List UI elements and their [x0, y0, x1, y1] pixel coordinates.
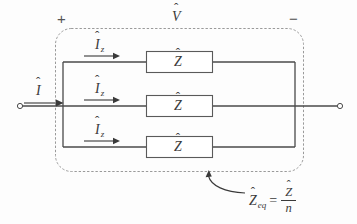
equation-operator: =: [269, 193, 277, 209]
total-current-hat-accent: ˆ: [36, 76, 40, 89]
equation-lhs: ˆ Z eq: [249, 193, 265, 209]
voltage-hat-accent: ˆ: [174, 2, 178, 15]
voltage-polarity-minus: −: [289, 11, 298, 26]
voltage-label: ˆ V: [172, 10, 181, 24]
equation-leader-arrow: [206, 170, 245, 193]
branch-middle-impedance-hat-accent: ˆ: [176, 91, 180, 104]
branch-bottom-current-hat-accent: ˆ: [95, 115, 99, 128]
branch-top-current-hat-accent: ˆ: [95, 30, 99, 43]
branch-bottom-current-subscript: z: [101, 129, 105, 139]
output-terminal: [337, 103, 342, 108]
equation-lhs-hat-accent: ˆ: [251, 185, 255, 200]
branch-bottom-impedance-label: ˆ Z: [174, 140, 182, 154]
branch-middle-current-subscript: z: [101, 88, 105, 98]
circuit-diagram-canvas: + − ˆ V ˆ I ˆ I z ˆ I z ˆ I z: [0, 0, 357, 224]
equation-denominator: n: [284, 201, 294, 215]
branch-middle-current-label: ˆ I z: [95, 82, 103, 96]
branch-top-current-subscript: z: [101, 44, 105, 54]
equivalent-impedance-equation: ˆ Z eq = ˆ Z n: [249, 186, 296, 215]
branch-middle-current-hat-accent: ˆ: [95, 74, 99, 87]
branch-top-impedance-hat-accent: ˆ: [176, 47, 180, 60]
equation-fraction: ˆ Z n: [281, 186, 296, 215]
branch-bottom-impedance-hat-accent: ˆ: [176, 132, 180, 145]
branch-top-impedance-label: ˆ Z: [174, 55, 182, 69]
branch-bottom-current-label: ˆ I z: [95, 123, 103, 137]
equation-lhs-subscript: eq: [258, 200, 267, 210]
input-terminal: [17, 103, 22, 108]
branch-top-current-label: ˆ I z: [95, 38, 103, 52]
branch-middle-impedance-label: ˆ Z: [174, 99, 182, 113]
total-current-label: ˆ I: [36, 84, 41, 98]
equation-numerator-hat-accent: ˆ: [287, 179, 291, 191]
voltage-polarity-plus: +: [57, 11, 66, 26]
equation-numerator: ˆ Z: [283, 186, 294, 200]
